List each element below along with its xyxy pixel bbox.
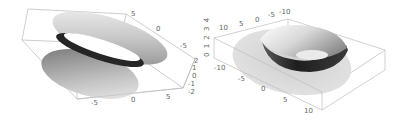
x-tick: 0	[131, 97, 135, 104]
y-tick: -10	[279, 9, 290, 16]
z-tick: -1	[188, 81, 195, 88]
plot-hyperboloid: 5 0 -5 2 1 0 -1 -2 -5 0 5	[0, 0, 200, 121]
x-tick: -5	[91, 100, 98, 107]
x-tick: 5	[166, 94, 170, 101]
x-tick: 5	[283, 97, 287, 104]
y-tick: 0	[156, 26, 160, 33]
hyperboloid-surface	[0, 0, 200, 121]
plot-bowl: 10 5 0 -5 -10 0 1 2 3 4 -10 -5 0 5 10	[200, 0, 401, 121]
z-tick: 0	[192, 73, 196, 80]
bowl-surface	[200, 0, 401, 121]
z-tick: -2	[188, 89, 195, 96]
y-tick: -5	[268, 12, 275, 19]
y-tick: 10	[219, 25, 228, 32]
x-tick: 10	[304, 108, 313, 115]
y-tick: -5	[180, 43, 187, 50]
z-tick: 1	[192, 65, 196, 72]
z-axis-ticks: 0 1 2 3 4	[203, 17, 211, 57]
x-tick: 0	[261, 86, 265, 93]
x-tick: -5	[238, 76, 245, 83]
y-tick: 5	[239, 21, 243, 28]
y-tick: 0	[255, 17, 259, 24]
y-tick: 5	[131, 11, 135, 18]
x-tick: -10	[214, 65, 225, 72]
